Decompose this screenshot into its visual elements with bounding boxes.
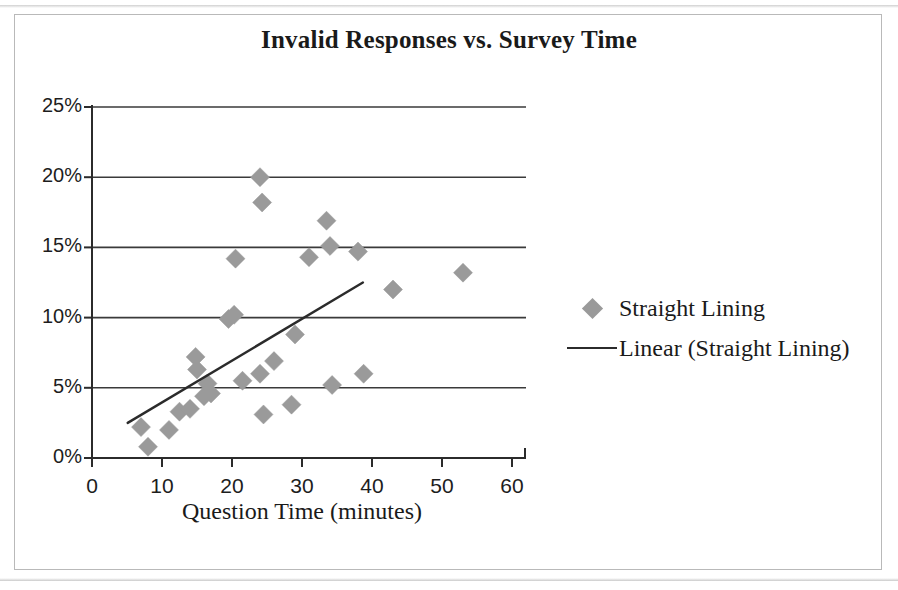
axis-ticks (84, 107, 512, 467)
legend-label-straight-lining: Straight Lining (619, 295, 765, 322)
x-tick-label: 30 (277, 474, 327, 498)
y-tick-label: 15% (16, 234, 82, 257)
legend-item-straight-lining[interactable]: Straight Lining (565, 288, 875, 328)
x-tick-label: 50 (417, 474, 467, 498)
diamond-marker-icon (565, 301, 619, 316)
x-tick-label: 20 (207, 474, 257, 498)
legend-label-linear-trend: Linear (Straight Lining) (619, 335, 850, 362)
x-tick-label: 40 (347, 474, 397, 498)
y-tick-label: 20% (16, 164, 82, 187)
y-tick-label: 25% (16, 94, 82, 117)
x-axis-title: Question Time (minutes) (92, 498, 512, 525)
x-tick-label: 60 (487, 474, 537, 498)
y-tick-label: 0% (16, 445, 82, 468)
y-tick-label: 10% (16, 305, 82, 328)
trendline (128, 283, 363, 423)
x-tick-label: 10 (137, 474, 187, 498)
data-point-markers (132, 168, 473, 457)
trend-line-icon (565, 347, 619, 349)
chart-legend: Straight Lining Linear (Straight Lining) (565, 288, 875, 368)
x-tick-label: 0 (67, 474, 117, 498)
y-tick-label: 5% (16, 375, 82, 398)
legend-item-linear-trend[interactable]: Linear (Straight Lining) (565, 328, 875, 368)
